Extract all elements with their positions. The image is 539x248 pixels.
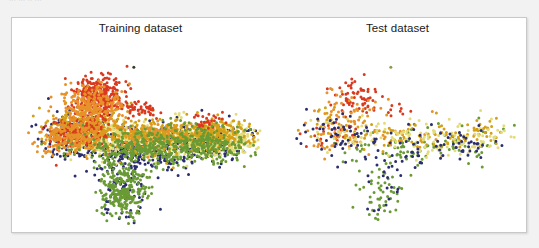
clipped-caption-fragment: ... ... .. ... [9, 0, 42, 2]
panel-test-dataset: Test dataset [269, 18, 526, 232]
scatter-plot-training [12, 18, 269, 232]
figure-card: Training dataset Test dataset [11, 17, 527, 233]
scatter-panel-group: Training dataset Test dataset [12, 18, 526, 232]
scatter-plot-test [269, 18, 526, 232]
panel-training-dataset: Training dataset [12, 18, 269, 232]
